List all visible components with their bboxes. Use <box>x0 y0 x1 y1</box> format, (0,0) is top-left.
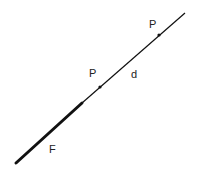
upper-point-dot <box>157 33 160 36</box>
distance-label: d <box>131 68 137 80</box>
middle-point-dot <box>98 85 101 88</box>
middle-point-label: P <box>89 67 96 79</box>
force-line-diagram: P P d F <box>0 0 197 172</box>
upper-point-label: P <box>149 18 156 30</box>
thin-line <box>82 13 185 103</box>
force-label: F <box>49 143 56 155</box>
diagram-canvas: P P d F <box>0 0 197 172</box>
